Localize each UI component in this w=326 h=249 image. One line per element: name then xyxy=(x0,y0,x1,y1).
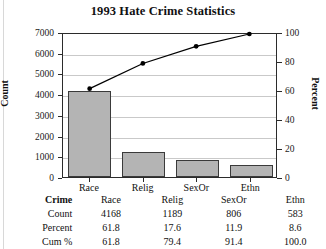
table-header-row: CrimeRaceReligSexOrEthn xyxy=(0,192,326,206)
table-row: Cum %61.879.491.4100.0 xyxy=(0,234,326,248)
table-cell: 100.0 xyxy=(265,234,326,248)
y-axis-right-tick-label: 60 xyxy=(285,86,313,96)
y-axis-left-tick-label: 0 xyxy=(22,173,54,183)
pareto-chart-figure: 1993 Hate Crime Statistics Count Percent… xyxy=(0,0,326,249)
table-cell: 61.8 xyxy=(80,220,141,234)
table-cell: 91.4 xyxy=(203,234,265,248)
y-axis-left-tick-label: 3000 xyxy=(22,111,54,121)
table-corner-label: Crime xyxy=(0,192,80,206)
y-axis-right-tick-label: 20 xyxy=(285,144,313,154)
y-axis-right-tick-mark xyxy=(277,149,282,150)
table-cell: 4168 xyxy=(80,206,141,220)
y-axis-left-tick-label: 7000 xyxy=(22,28,54,38)
plot-area xyxy=(62,33,277,178)
table-cell: 806 xyxy=(203,206,265,220)
y-axis-left-tick-label: 1000 xyxy=(22,152,54,162)
cumulative-line xyxy=(90,34,250,89)
y-axis-left-title: Count xyxy=(0,80,10,107)
table-column-header: Ethn xyxy=(265,192,326,206)
y-axis-right-tick-label: 80 xyxy=(285,57,313,67)
y-axis-right-tick-mark xyxy=(277,91,282,92)
table-cell: 11.9 xyxy=(203,220,265,234)
table-column-header: SexOr xyxy=(203,192,265,206)
y-axis-left-tick-mark xyxy=(58,178,62,179)
table-row-label: Cum % xyxy=(0,234,80,248)
cumulative-line-series xyxy=(63,34,276,177)
table-row: Count41681189806583 xyxy=(0,206,326,220)
table-cell: 61.8 xyxy=(80,234,141,248)
x-axis-tick-mark xyxy=(250,178,251,182)
data-table: CrimeRaceReligSexOrEthnCount416811898065… xyxy=(0,192,326,248)
table-row-label: Count xyxy=(0,206,80,220)
y-axis-right-tick-label: 100 xyxy=(285,28,313,38)
page-title: 1993 Hate Crime Statistics xyxy=(0,4,326,19)
table-cell: 17.6 xyxy=(142,220,203,234)
table-row: Percent61.817.611.98.6 xyxy=(0,220,326,234)
line-marker xyxy=(247,32,252,37)
y-axis-right-tick-mark xyxy=(277,178,282,179)
y-axis-left-tick-label: 6000 xyxy=(22,49,54,59)
table-column-header: Race xyxy=(80,192,141,206)
y-axis-right-tick-label: 40 xyxy=(285,115,313,125)
table-cell: 79.4 xyxy=(142,234,203,248)
table-column-header: Relig xyxy=(142,192,203,206)
y-axis-right-tick-label: 0 xyxy=(285,173,313,183)
y-axis-left-tick-label: 2000 xyxy=(22,132,54,142)
y-axis-left-tick-label: 4000 xyxy=(22,90,54,100)
line-marker xyxy=(87,86,92,91)
y-axis-right-tick-mark xyxy=(277,33,282,34)
y-axis-right-tick-mark xyxy=(277,62,282,63)
x-axis-tick-mark xyxy=(196,178,197,182)
line-marker xyxy=(194,44,199,49)
y-axis-left-tick-label: 5000 xyxy=(22,69,54,79)
table-cell: 8.6 xyxy=(265,220,326,234)
table-row-label: Percent xyxy=(0,220,80,234)
line-marker xyxy=(140,61,145,66)
x-axis-tick-mark xyxy=(89,178,90,182)
table-cell: 583 xyxy=(265,206,326,220)
y-axis-right-tick-mark xyxy=(277,120,282,121)
x-axis-tick-mark xyxy=(143,178,144,182)
table-cell: 1189 xyxy=(142,206,203,220)
